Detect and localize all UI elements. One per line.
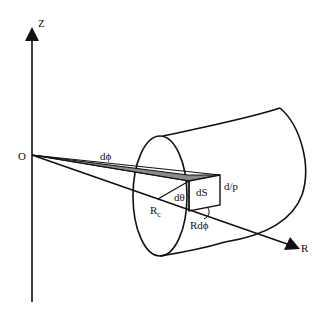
origin-label: O (18, 150, 26, 162)
tube-far-end-arc (225, 108, 306, 242)
d-s-label: dS (196, 186, 208, 198)
z-axis-label: Z (38, 17, 45, 29)
tube-bottom-edge (160, 242, 225, 256)
d-phi-wedge (32, 155, 220, 181)
r-d-phi-label: Rdϕ (190, 219, 209, 231)
d-theta-label: dθ (174, 191, 185, 203)
z-axis-arrowhead (25, 27, 39, 41)
r-axis-label: R (301, 242, 309, 254)
r-c-label: Rc (150, 204, 161, 219)
d-l-p-label: d/p (224, 180, 239, 192)
tube-top-edge (163, 108, 280, 136)
toroidal-geometry-diagram: Z O R dϕ dθ dS d/p Rc Rdϕ (0, 0, 324, 331)
d-phi-label: dϕ (100, 150, 112, 162)
